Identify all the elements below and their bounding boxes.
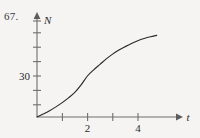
y-axis-label: N: [43, 14, 52, 26]
data-curve-logistic: [37, 35, 157, 117]
x-axis-arrow-icon: [176, 114, 183, 121]
plot-area: N t 30 2 4: [0, 0, 200, 138]
figure-container: 67. N t 30 2 4: [0, 0, 200, 138]
x-tick-label-4: 4: [135, 122, 141, 134]
y-tick-label-30: 30: [19, 70, 31, 82]
x-tick-label-2: 2: [85, 122, 91, 134]
y-axis-arrow-icon: [34, 12, 41, 19]
x-axis-label: t: [186, 111, 190, 123]
